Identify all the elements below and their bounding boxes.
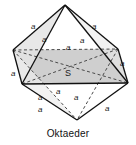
center-point-label: S (65, 69, 71, 78)
edge-label-upper-left-inner: a (42, 36, 46, 44)
edge-label-upper-right-outer: a (92, 23, 96, 31)
edge-label-lower-inner-left: a (38, 94, 42, 102)
edge-leftfront-to-rightfront (22, 83, 128, 84)
edge-label-lower-front-right: a (105, 105, 109, 113)
edge-leftfront-to-bottom (22, 84, 77, 120)
edge-label-lower-inner-right: a (74, 94, 78, 102)
edge-label-equator-back: a (66, 44, 70, 52)
edge-label-lower-back-left: a (56, 88, 60, 96)
edge-label-lower-front-left: a (38, 106, 42, 114)
edge-label-equator-right: a (120, 60, 124, 68)
edge-label-upper-left-outer: a (31, 23, 35, 31)
octahedron-drawing (0, 0, 136, 128)
octahedron-figure: S a a a a a a a a a a a a Oktaeder (0, 0, 136, 145)
figure-caption: Oktaeder (0, 128, 136, 139)
edge-rightfront-to-bottom (77, 83, 128, 120)
edge-label-upper-right-inner: a (80, 37, 84, 45)
edge-label-equator-left: a (11, 70, 15, 78)
